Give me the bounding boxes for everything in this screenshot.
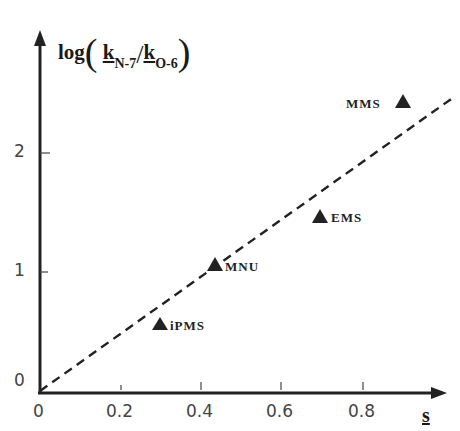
point-label-ems: EMS — [331, 210, 362, 226]
y-axis-arrow-icon — [34, 30, 46, 46]
x-tick-label-0: 0 — [33, 401, 44, 421]
y-tick-label-1: 1 — [14, 260, 25, 280]
fit-line — [40, 97, 454, 391]
point-ipms-triangle-icon — [152, 317, 168, 330]
ylabel-log: log — [58, 40, 85, 64]
y-axis-label: log( kN-7/kO-6) — [58, 24, 190, 68]
point-mnu-triangle-icon — [207, 257, 223, 271]
x-tick-label-0.4: 0.4 — [186, 401, 213, 421]
x-tick-label-0.2: 0.2 — [106, 401, 133, 421]
x-tick-label-0.6: 0.6 — [266, 401, 293, 421]
ylabel-denominator-sub: O-6 — [155, 56, 178, 71]
point-label-mnu: MNU — [225, 259, 259, 275]
y-tick-label-2: 2 — [14, 141, 25, 161]
ylabel-numerator-sub: N-7 — [114, 56, 136, 71]
point-label-mms: MMS — [346, 96, 381, 112]
x-axis-arrow-icon — [431, 387, 447, 399]
ylabel-denominator-k: k — [143, 40, 155, 64]
point-label-ipms: iPMS — [170, 318, 205, 334]
point-ems-triangle-icon — [312, 209, 328, 223]
y-tick-label-0: 0 — [14, 370, 25, 390]
ylabel-numerator-k: k — [103, 40, 115, 64]
x-axis-label: s — [422, 404, 430, 427]
point-mms-triangle-icon — [395, 94, 411, 108]
x-tick-label-0.8: 0.8 — [348, 401, 375, 421]
